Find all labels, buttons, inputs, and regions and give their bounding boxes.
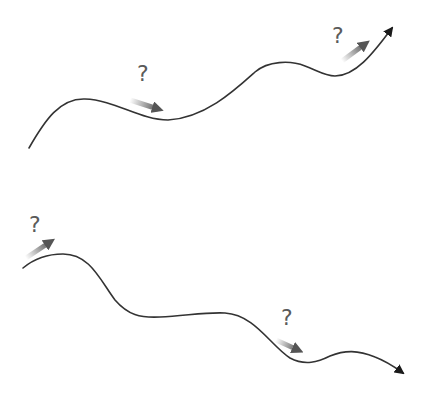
- motion-arrow-icon: [130, 100, 158, 109]
- question-mark-icon: ?: [281, 307, 293, 329]
- diagram-canvas: [0, 0, 431, 406]
- question-mark-icon: ?: [29, 214, 41, 236]
- question-mark-icon: ?: [137, 63, 149, 85]
- markers-layer: [26, 44, 365, 350]
- question-mark-icon: ?: [332, 25, 344, 47]
- paths-layer: [23, 28, 403, 373]
- motion-arrow-icon: [342, 44, 365, 61]
- downward-path: [23, 254, 403, 373]
